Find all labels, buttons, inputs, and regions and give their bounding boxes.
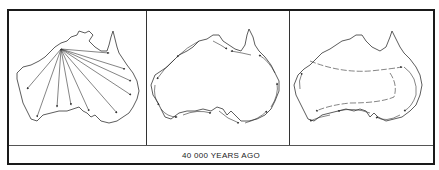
coastal-arrows xyxy=(155,41,278,123)
australia-map-radial xyxy=(9,11,146,145)
australia-map-coastal xyxy=(147,11,289,145)
map-panel-coastal xyxy=(147,11,290,145)
inland-arrows xyxy=(299,61,416,121)
figure-frame: 40 000 YEARS AGO xyxy=(7,9,435,165)
map-panel-inland xyxy=(290,11,433,145)
coastline xyxy=(151,29,279,121)
figure-caption: 40 000 YEARS AGO xyxy=(9,145,433,164)
map-panel-radial xyxy=(9,11,147,145)
coastline xyxy=(294,31,422,121)
panels-row xyxy=(9,11,433,145)
australia-map-inland xyxy=(290,11,433,145)
coastline xyxy=(17,31,139,123)
